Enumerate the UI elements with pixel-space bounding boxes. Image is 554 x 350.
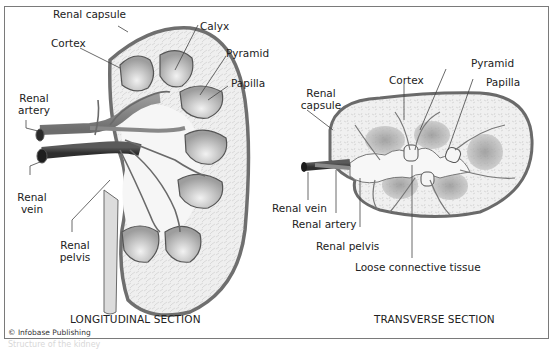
longitudinal-kidney [36,28,249,315]
label-transverse-cortex: Cortex [389,74,424,86]
label-renal-capsule: Renal capsule [53,8,126,20]
label-calyx: Calyx [200,20,229,32]
label-renal-vein-line1: Renal [17,191,47,203]
label-pyramid: Pyramid [226,47,269,59]
label-renal-pelvis-line2: pelvis [58,251,92,263]
label-renal-artery-line2: artery [17,104,51,116]
label-transverse-renal-capsule-line1: Renal [300,87,342,99]
label-transverse-renal-artery: Renal artery [292,218,357,230]
label-cortex: Cortex [51,37,86,49]
renal-artery-branch [90,128,185,131]
label-transverse-renal-capsule: Renal capsule [300,87,342,111]
label-renal-artery: Renal artery [17,92,51,116]
label-renal-pelvis: Renal pelvis [58,239,92,263]
copyright-notice: © Infobase Publishing [8,328,91,337]
transverse-vein-opening [301,162,307,172]
label-transverse-pyramid: Pyramid [471,57,514,69]
label-renal-vein-line2: vein [17,203,47,215]
label-transverse-renal-pelvis: Renal pelvis [316,240,379,252]
ureter [104,190,118,314]
label-papilla: Papilla [231,77,265,89]
kidney-illustration [0,0,554,350]
label-loose-connective-tissue: Loose connective tissue [355,261,481,273]
label-transverse-papilla: Papilla [486,76,520,88]
label-renal-vein: Renal vein [17,191,47,215]
label-renal-artery-line1: Renal [17,92,51,104]
renal-vein [42,147,140,153]
title-longitudinal-section: LONGITUDINAL SECTION [70,313,201,325]
label-transverse-renal-capsule-line2: capsule [300,99,342,111]
label-transverse-renal-vein: Renal vein [272,202,327,214]
renal-vein-opening [37,149,47,163]
title-transverse-section: TRANSVERSE SECTION [374,313,495,325]
label-renal-pelvis-line1: Renal [58,239,92,251]
ghost-caption: Structure of the kidney [8,340,100,349]
